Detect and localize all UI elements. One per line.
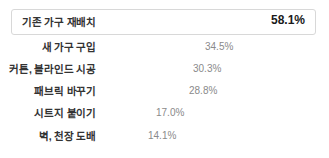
bar-category-label-3: 패브릭 바꾸기 [0,85,96,97]
bar-value-label-3: 28.8% [189,85,217,97]
bar-category-label-4: 시트지 붙이기 [0,107,96,119]
chart-row-1: 새 가구 구입 34.5% [0,36,329,58]
bar-value-label-2: 30.3% [193,63,221,75]
chart-row-4: 시트지 붙이기 17.0% [0,102,329,124]
bar-category-label-0: 기존 가구 재배치 [0,16,96,28]
bar-value-label-1: 34.5% [205,41,233,53]
bar-category-label-5: 벽, 천장 도배 [0,130,96,142]
bar-value-label-4: 17.0% [156,107,184,119]
bar-value-label-5: 14.1% [148,130,176,142]
bar-category-label-2: 커튼, 블라인드 시공 [0,63,96,75]
chart-row-0: 기존 가구 재배치 58.1% [0,11,329,33]
chart-row-3: 패브릭 바꾸기 28.8% [0,80,329,102]
chart-row-2: 커튼, 블라인드 시공 30.3% [0,58,329,80]
horizontal-bar-chart: 기존 가구 재배치 58.1% 새 가구 구입 34.5% 커튼, 블라인드 시… [0,0,329,158]
bar-value-label-0: 58.1% [271,14,305,26]
bar-category-label-1: 새 가구 구입 [0,41,96,53]
chart-row-5: 벽, 천장 도배 14.1% [0,125,329,147]
